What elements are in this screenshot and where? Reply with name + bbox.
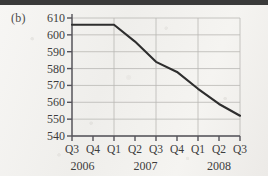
x-axis-tick-label: Q3 xyxy=(227,144,253,156)
y-axis-tick-label: 570 xyxy=(31,79,65,91)
line-chart: 610600590580570560550540Q3Q4Q1Q2Q3Q4Q1Q2… xyxy=(0,0,268,176)
y-axis-tick-label: 540 xyxy=(31,130,65,142)
y-axis-tick-label: 580 xyxy=(31,63,65,75)
y-axis-tick-label: 600 xyxy=(31,29,65,41)
x-axis-year-label: 2008 xyxy=(196,160,242,172)
y-axis-tick-label: 550 xyxy=(31,113,65,125)
y-axis-tick-label: 560 xyxy=(31,96,65,108)
y-axis-tick-label: 610 xyxy=(31,12,65,24)
chart-figure: (b) 610600590580570560550540Q3Q4Q1Q2Q3Q4… xyxy=(0,0,268,176)
x-axis-year-label: 2006 xyxy=(60,160,106,172)
x-axis-year-label: 2007 xyxy=(123,160,169,172)
y-axis-tick-label: 590 xyxy=(31,46,65,58)
